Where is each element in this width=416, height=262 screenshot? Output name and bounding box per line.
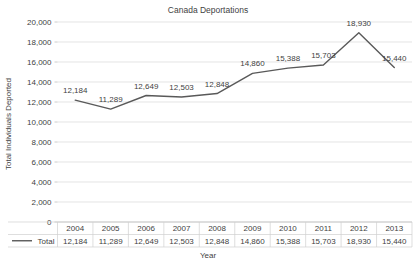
y-axis-title: Total Individuals Deported <box>4 78 13 170</box>
y-axis-tick-label: 14,000 <box>27 78 52 87</box>
y-axis-tick-label: 2,000 <box>31 198 52 207</box>
table-header-cell: 2009 <box>244 224 262 233</box>
line-chart: Canada Deportations02,0004,0006,0008,000… <box>0 0 416 262</box>
table-header-cell: 2007 <box>173 224 191 233</box>
table-header-cell: 2013 <box>385 224 403 233</box>
table-value-cell: 12,649 <box>134 237 159 246</box>
legend-series-label: Total <box>38 237 55 246</box>
y-axis-tick-label: 18,000 <box>27 38 52 47</box>
data-point-label: 18,930 <box>347 19 372 28</box>
table-value-cell: 12,503 <box>169 237 194 246</box>
data-point-label: 12,503 <box>169 83 194 92</box>
data-point-label: 11,289 <box>99 95 123 104</box>
series-line-total <box>75 33 394 109</box>
table-value-cell: 12,184 <box>63 237 88 246</box>
x-axis-title: Year <box>200 251 217 260</box>
table-header-cell: 2004 <box>66 224 84 233</box>
table-value-cell: 15,388 <box>276 237 301 246</box>
y-axis-tick-label: 16,000 <box>27 58 52 67</box>
data-point-label: 12,848 <box>205 80 230 89</box>
data-point-label: 15,703 <box>311 51 336 60</box>
table-value-cell: 18,930 <box>347 237 372 246</box>
table-header-cell: 2008 <box>208 224 226 233</box>
table-header-cell: 2010 <box>279 224 297 233</box>
y-axis-tick-label: 6,000 <box>31 158 52 167</box>
table-header-cell: 2005 <box>102 224 120 233</box>
table-value-cell: 11,289 <box>99 237 123 246</box>
table-header-cell: 2012 <box>350 224 368 233</box>
table-header-cell: 2006 <box>137 224 155 233</box>
table-value-cell: 15,440 <box>382 237 407 246</box>
y-axis-tick-label: 12,000 <box>27 98 52 107</box>
table-value-cell: 12,848 <box>205 237 230 246</box>
data-point-label: 15,440 <box>382 54 407 63</box>
y-axis-tick-label: 8,000 <box>31 138 52 147</box>
data-point-label: 14,860 <box>240 59 265 68</box>
table-value-cell: 15,703 <box>311 237 336 246</box>
data-point-label: 15,388 <box>276 54 301 63</box>
chart-title: Canada Deportations <box>168 5 248 15</box>
data-point-label: 12,649 <box>134 82 159 91</box>
y-axis-tick-label: 4,000 <box>31 178 52 187</box>
data-point-label: 12,184 <box>63 86 88 95</box>
table-value-cell: 14,860 <box>240 237 265 246</box>
y-axis-tick-label: 10,000 <box>27 118 52 127</box>
y-axis-tick-label: 20,000 <box>27 18 52 27</box>
table-header-cell: 2011 <box>315 224 333 233</box>
chart-container: Canada Deportations02,0004,0006,0008,000… <box>0 0 416 262</box>
